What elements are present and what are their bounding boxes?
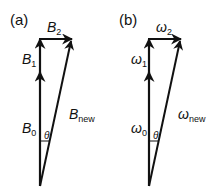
panel-a-label: (a) bbox=[10, 11, 28, 28]
label-b0: B0 bbox=[22, 120, 36, 138]
label-omega1: ω1 bbox=[131, 51, 147, 69]
label-bnew: Bnew bbox=[69, 106, 95, 124]
label-b2: B2 bbox=[47, 19, 61, 37]
panel-a: (a) B2 B1 B0 Bnew θ bbox=[10, 11, 95, 186]
panel-b: (b) ω2 ω1 ω0 ωnew θ bbox=[119, 11, 206, 186]
label-omeganew: ωnew bbox=[178, 106, 206, 124]
panel-b-label: (b) bbox=[119, 11, 137, 28]
label-omega0: ω0 bbox=[131, 120, 147, 138]
label-theta-a: θ bbox=[44, 130, 50, 141]
label-omega2: ω2 bbox=[156, 19, 172, 37]
vector-bnew bbox=[40, 41, 71, 186]
vector-omeganew bbox=[149, 41, 180, 186]
vector-diagram: (a) B2 B1 B0 Bnew θ (b) ω2 ω1 ω0 ωnew θ bbox=[0, 0, 212, 193]
label-theta-b: θ bbox=[153, 130, 159, 141]
label-b1: B1 bbox=[22, 51, 36, 69]
